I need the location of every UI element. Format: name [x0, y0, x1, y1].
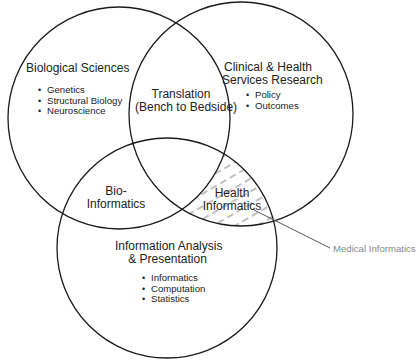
clinical-health-title-line2: Services Research — [222, 74, 314, 87]
translation-line2: (Bench to Bedside) — [135, 101, 227, 114]
bioinformatics-line2: Informatics — [86, 198, 146, 211]
clinical-health-title: Clinical & Health Services Research — [222, 61, 314, 87]
list-item: Statistics — [142, 294, 205, 305]
biological-sciences-title: Biological Sciences — [26, 62, 129, 76]
health-informatics-label: Health Informatics — [201, 187, 263, 213]
biological-sciences-list: Genetics Structural Biology Neuroscience — [38, 85, 122, 117]
translation-label: Translation (Bench to Bedside) — [135, 88, 227, 114]
information-analysis-title-line2: & Presentation — [115, 253, 220, 266]
information-analysis-list: Informatics Computation Statistics — [142, 273, 205, 305]
clinical-health-list: Policy Outcomes — [246, 90, 299, 111]
bioinformatics-label: Bio- Informatics — [86, 185, 146, 211]
information-analysis-title: Information Analysis & Presentation — [115, 240, 220, 266]
list-item: Outcomes — [246, 101, 299, 112]
health-informatics-line2: Informatics — [201, 200, 263, 213]
medical-informatics-callout-line — [254, 210, 330, 248]
list-item: Neuroscience — [38, 106, 122, 117]
medical-informatics-callout-label: Medical Informatics — [333, 243, 416, 254]
